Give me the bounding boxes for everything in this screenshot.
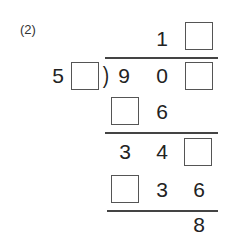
remainder-digit: 8	[192, 211, 206, 239]
step2-digit-2: 4	[155, 138, 169, 166]
step2-digit-1: 3	[118, 138, 132, 166]
step3-blank-box[interactable]	[111, 175, 139, 203]
dividend-digit-1: 9	[117, 62, 131, 90]
quotient-digit-1: 1	[155, 25, 169, 53]
step1-digit-2: 6	[155, 98, 169, 126]
dividend-digit-2: 0	[155, 62, 169, 90]
subtraction-line-1	[105, 132, 218, 134]
step2-blank-box[interactable]	[184, 138, 212, 166]
problem-label: (2)	[20, 22, 36, 37]
step1-blank-box[interactable]	[111, 97, 139, 125]
division-bar	[105, 57, 218, 59]
step3-digit-2: 3	[155, 176, 169, 204]
divisor-blank-box[interactable]	[71, 62, 99, 90]
divisor-digit-1: 5	[51, 62, 65, 90]
quotient-blank-box[interactable]	[185, 22, 213, 50]
dividend-blank-box[interactable]	[185, 62, 213, 90]
step3-digit-3: 6	[192, 176, 206, 204]
division-bracket: )	[103, 61, 109, 89]
